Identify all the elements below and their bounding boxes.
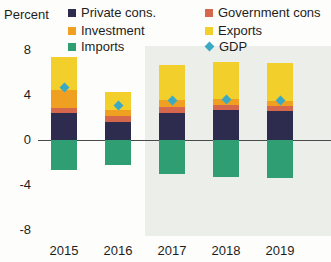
x-tick-label: 2017 [147, 243, 197, 258]
legend-square-icon [68, 9, 76, 17]
bar-segment [159, 140, 185, 175]
y-tick-label: 4 [5, 87, 31, 102]
bar-segment [213, 140, 239, 177]
legend-square-icon [205, 27, 213, 35]
legend-item-gdp[interactable]: GDP [205, 40, 247, 53]
bar-segment [213, 110, 239, 139]
bar-segment [51, 113, 77, 140]
legend-label: Government cons [218, 6, 321, 19]
legend-diamond-icon [205, 42, 215, 52]
legend-square-icon [68, 43, 76, 51]
legend-square-icon [205, 9, 213, 17]
bar-segment [159, 107, 185, 113]
legend-item-government_cons[interactable]: Government cons [205, 6, 321, 19]
chart-legend: Percent Private cons.Government consInve… [0, 0, 331, 52]
bar-segment [105, 116, 131, 122]
bar-segment [51, 140, 77, 170]
legend-label: Investment [81, 24, 145, 37]
legend-label: Exports [218, 24, 262, 37]
bar-segment [105, 140, 131, 166]
bar-segment [51, 108, 77, 113]
legend-item-investment[interactable]: Investment [68, 24, 145, 37]
x-tick-label: 2019 [255, 243, 305, 258]
legend-label: Imports [81, 40, 124, 53]
legend-label: Private cons. [81, 6, 156, 19]
bar-segment [105, 110, 131, 116]
bar-segment [267, 111, 293, 139]
bar-segment [267, 106, 293, 112]
legend-square-icon [68, 27, 76, 35]
x-tick-label: 2018 [201, 243, 251, 258]
y-tick-label: 0 [5, 132, 31, 147]
legend-item-imports[interactable]: Imports [68, 40, 124, 53]
bar-segment [267, 140, 293, 178]
y-axis-unit-label: Percent [4, 7, 49, 22]
bar-segment [213, 105, 239, 111]
y-tick-label: -4 [5, 177, 31, 192]
legend-label: GDP [219, 40, 247, 53]
y-tick-label: -8 [5, 222, 31, 237]
x-tick-label: 2016 [93, 243, 143, 258]
x-tick-label: 2015 [39, 243, 89, 258]
legend-item-exports[interactable]: Exports [205, 24, 262, 37]
gdp-contribution-chart: 840-4-8 20152016201720182019 Percent Pri… [0, 0, 331, 262]
bar-segment [105, 122, 131, 140]
legend-item-private_cons[interactable]: Private cons. [68, 6, 156, 19]
bar-segment [159, 113, 185, 140]
